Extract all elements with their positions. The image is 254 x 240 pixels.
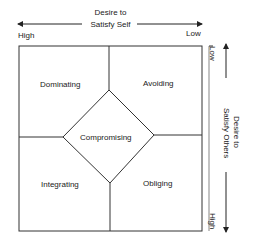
diagram-lines bbox=[0, 0, 254, 240]
top-axis-high: High bbox=[18, 31, 34, 40]
right-axis-low: Low bbox=[208, 46, 217, 61]
quadrant-compromising: Compromising bbox=[80, 133, 132, 142]
quadrant-avoiding: Avoiding bbox=[143, 79, 174, 88]
quadrant-integrating: Integrating bbox=[41, 180, 79, 189]
right-axis-label-2: Satisfy Others bbox=[222, 108, 231, 158]
top-axis-low: Low bbox=[186, 29, 201, 38]
top-axis-label-1: Desire to bbox=[88, 8, 133, 17]
right-axis-label-1: Desire to bbox=[232, 116, 241, 148]
right-axis-high: High bbox=[208, 213, 217, 229]
quadrant-obliging: Obliging bbox=[143, 179, 172, 188]
quadrant-dominating: Dominating bbox=[40, 80, 80, 89]
top-axis-label-2: Satisfy Self bbox=[84, 20, 137, 29]
